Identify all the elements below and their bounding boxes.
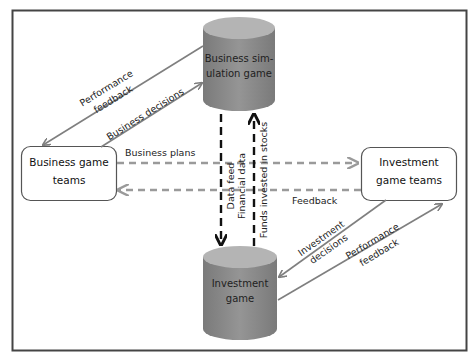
funds-invested-label: Funds invested in stocks: [258, 122, 269, 239]
diagram-svg: Business sim- ulation game Investment ga…: [0, 0, 476, 362]
business-sim-label-line1: Business sim-: [205, 53, 274, 64]
performance-feedback-top-label: Performance feedback: [78, 68, 142, 120]
investment-game-cylinder: Investment game: [203, 246, 277, 340]
business-teams-label-line1: Business game: [29, 156, 108, 168]
investment-teams-label-line1: Investment: [379, 156, 438, 168]
business-plans-label: Business plans: [125, 147, 195, 158]
data-feed-label: Data feed: [225, 163, 236, 210]
investment-game-teams-box: Investment game teams: [362, 148, 457, 201]
business-simulation-game-cylinder: Business sim- ulation game: [203, 17, 275, 111]
investment-game-label-line1: Investment: [212, 278, 269, 289]
investment-teams-label-line2: game teams: [376, 174, 442, 186]
feedback-label: Feedback: [292, 195, 338, 206]
business-game-teams-box: Business game teams: [22, 147, 117, 201]
performance-feedback-bottom-label: Performance feedback: [344, 221, 408, 273]
business-teams-label-line2: teams: [53, 174, 86, 186]
financial-data-label: Financial data: [236, 153, 247, 219]
investment-game-label-line2: game: [226, 293, 254, 304]
business-sim-label-line2: ulation game: [206, 68, 272, 79]
diagram-canvas: Business sim- ulation game Investment ga…: [0, 0, 476, 362]
